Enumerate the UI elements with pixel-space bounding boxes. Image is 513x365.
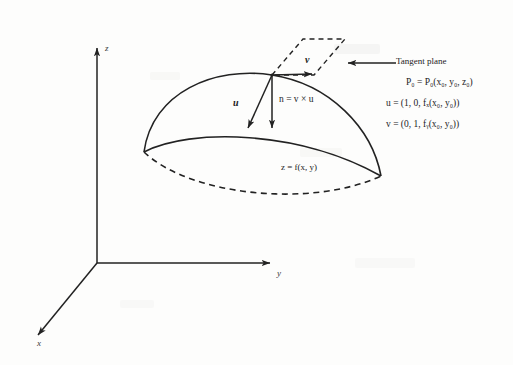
surface-top-arc [144,73,381,176]
z-axis-label: z [105,44,109,53]
vector-u [248,75,272,128]
surface-back-rim-dashed [144,152,381,194]
coordinate-axes [38,48,270,335]
x-axis-label: x [37,339,41,348]
surface-equation-label: z = f(x, y) [281,163,317,172]
u-definition-equation: u = (1, 0, fₓ(x₀, y₀)) [386,99,459,109]
surface-dome [144,73,381,194]
surface-front-rim [144,137,381,176]
tangent-plane-annotation: Tangent plane [396,57,447,66]
point-p0-equation: P₀ = P₀(x₀, y₀, z₀) [406,78,473,88]
diagram-svg [0,0,513,365]
figure-canvas: z y x v u n = v × u z = f(x, y) Tangent … [0,0,513,365]
vector-v-label: v [305,55,309,65]
vector-v [272,74,312,75]
y-axis-label: y [277,269,281,278]
v-definition-equation: v = (0, 1, fᵧ(x₀, y₀)) [386,120,459,130]
x-axis [38,263,97,335]
normal-vector-equation: n = v × u [279,95,313,105]
tangent-point-marker [270,73,273,76]
vector-u-label: u [233,98,239,108]
